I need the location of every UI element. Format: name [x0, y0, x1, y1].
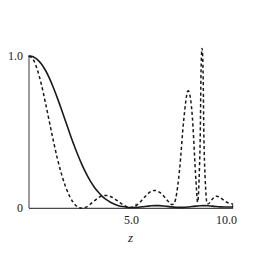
x-axis-tick-label-10: 10.0 — [216, 214, 237, 226]
y-axis-tick-label-bottom: 0 — [17, 202, 23, 214]
x-axis-tick-label-5: 5.0 — [124, 214, 139, 226]
y-axis-tick-label-top: 1.0 — [8, 50, 23, 62]
figure-container: 1.0 0 5.0 10.0 z — [0, 0, 255, 253]
series-solid-curve — [29, 56, 233, 208]
x-axis-title: z — [128, 232, 133, 244]
series-dashed-curve — [29, 48, 233, 208]
